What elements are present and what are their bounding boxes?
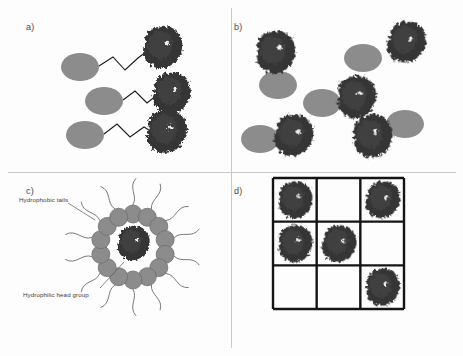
conjugate-unit: [85, 72, 191, 115]
conjugate-unit: [66, 109, 187, 153]
protein-blob: [147, 109, 187, 153]
hydrophobic-tail: [174, 229, 199, 237]
hydrophobic-tail: [174, 257, 199, 265]
dispersed-unit: [241, 112, 315, 158]
hydrophilic-head-group-circle: [110, 208, 128, 226]
protein-blob: [143, 26, 182, 68]
hydrophobic-tail: [81, 274, 100, 292]
protein-blob: [320, 223, 359, 265]
encapsulated-protein-blob: [118, 226, 150, 261]
hydrophobic-tail: [151, 184, 160, 209]
figure-canvas: a) b) c) d) Hydrophobic tails Hydrophili…: [0, 0, 463, 356]
leader-line-hydrophobic-tails: [68, 203, 95, 220]
protein-blob: [276, 223, 315, 264]
zigzag-linker: [99, 52, 146, 70]
hydrophilic-head-group-ellipse: [66, 121, 104, 149]
panel-b-content: [241, 18, 429, 161]
hydrophilic-head-group-ellipse: [85, 87, 123, 115]
hydrophobic-tail: [166, 206, 188, 220]
dispersed-unit: [349, 110, 424, 161]
panel-a-content: [61, 26, 191, 153]
hydrophobic-tail: [133, 179, 136, 205]
conjugate-unit: [61, 26, 182, 81]
hydrophobic-tail: [66, 256, 92, 261]
protein-blob: [153, 72, 191, 113]
hydrophobic-tail: [66, 233, 92, 238]
hydrophilic-head-group-ellipse: [303, 89, 341, 117]
protein-blob: [335, 74, 378, 120]
protein-blob: [276, 179, 315, 220]
panel-c-content: [66, 179, 200, 316]
hydrophilic-head-group-ellipse: [259, 71, 297, 99]
dispersed-unit: [303, 74, 378, 120]
protein-blob: [272, 112, 315, 158]
figure-graphics: [0, 0, 463, 356]
immobilised-proteins: [276, 179, 402, 307]
hydrophobic-tail: [101, 285, 115, 307]
protein-blob: [363, 179, 402, 221]
hydrophobic-tail: [133, 290, 136, 316]
zigzag-linker: [123, 91, 157, 103]
hydrophobic-tail: [166, 274, 188, 288]
protein-blob: [384, 18, 429, 66]
hydrophobic-tail: [81, 202, 100, 220]
panel-d-content: [273, 178, 404, 309]
dispersed-unit: [253, 28, 298, 99]
zigzag-linker: [104, 124, 152, 137]
dispersed-unit: [344, 18, 429, 72]
protein-blob: [364, 267, 403, 308]
protein-blob: [253, 28, 298, 76]
hydrophilic-head-group-ellipse: [61, 53, 99, 81]
hydrophobic-tail: [101, 187, 115, 209]
hydrophilic-head-group-ellipse: [344, 44, 382, 72]
hydrophilic-head-group-ellipse: [241, 125, 279, 153]
hydrophobic-tail: [151, 285, 160, 310]
